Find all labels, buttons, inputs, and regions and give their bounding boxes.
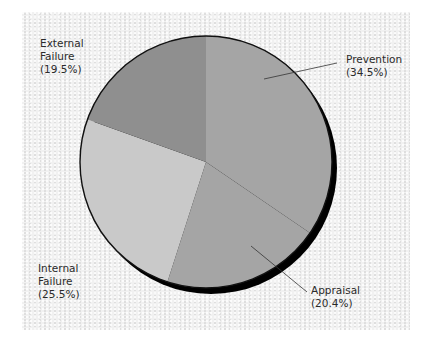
prevention-label-value: (34.5%) [346,66,402,79]
external-failure-label-value: (19.5%) [40,63,84,76]
prevention-label-name: Prevention [346,53,402,66]
external-failure-label-line2: Failure [40,50,84,63]
pie-slices [80,36,332,288]
internal-failure-label-line1: Internal [38,262,80,275]
appraisal-label: Appraisal (20.4%) [311,284,360,310]
internal-failure-label: Internal Failure (25.5%) [38,262,80,301]
prevention-label: Prevention (34.5%) [346,53,402,79]
appraisal-label-name: Appraisal [311,284,360,297]
appraisal-label-value: (20.4%) [311,297,360,310]
external-failure-label: External Failure (19.5%) [40,37,84,76]
external-failure-label-line1: External [40,37,84,50]
internal-failure-label-line2: Failure [38,275,80,288]
internal-failure-label-value: (25.5%) [38,288,80,301]
